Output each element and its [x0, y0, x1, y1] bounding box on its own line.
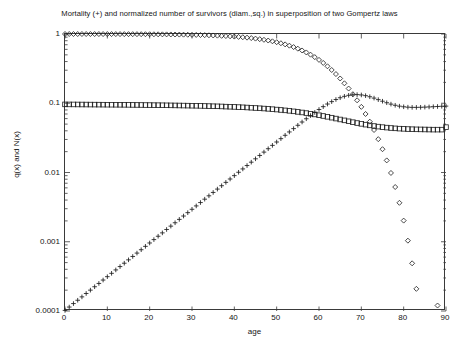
x-axis-tick-labels: 0102030405060708090 [64, 313, 445, 327]
x-tick-50: 50 [271, 313, 280, 322]
data-series-layer [65, 34, 446, 311]
x-tick-80: 80 [398, 313, 407, 322]
y-tick-0.001: 0.001 [40, 236, 60, 245]
x-tick-10: 10 [102, 313, 111, 322]
y-axis-title: q(x) and N(x) [12, 100, 21, 210]
plot-area [64, 33, 445, 310]
chart-figure: Mortality (+) and normalized number of s… [0, 0, 459, 350]
x-tick-30: 30 [187, 313, 196, 322]
y-axis-tick-labels: 10.10.010.0010.0001 [0, 33, 60, 310]
x-tick-70: 70 [356, 313, 365, 322]
y-tick-0.1: 0.1 [49, 98, 60, 107]
x-tick-90: 90 [441, 313, 450, 322]
x-tick-40: 40 [229, 313, 238, 322]
y-tick-0.01: 0.01 [44, 167, 60, 176]
x-axis-title: age [64, 327, 445, 336]
x-tick-20: 20 [144, 313, 153, 322]
x-tick-0: 0 [62, 313, 66, 322]
series-3-square [63, 102, 449, 132]
x-tick-60: 60 [314, 313, 323, 322]
y-tick-1: 1 [56, 29, 60, 38]
chart-title: Mortality (+) and normalized number of s… [0, 9, 459, 18]
y-tick-0.0001: 0.0001 [36, 306, 60, 315]
